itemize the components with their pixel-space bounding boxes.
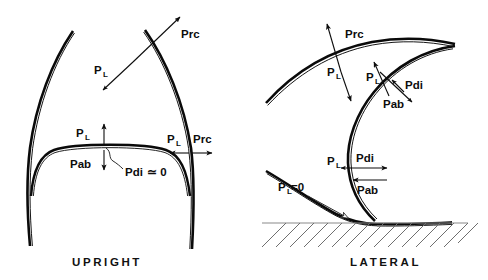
label-pab-lateral-lower: Pab xyxy=(357,184,378,196)
label-pl-lateral-lower-base: P xyxy=(327,155,335,167)
label-pl-zero-suffix: =0 xyxy=(291,181,304,193)
label-prc-upright-top: Prc xyxy=(181,28,200,40)
label-pab-lateral-lower-base: Pab xyxy=(357,184,378,196)
label-pl-lateral-mid-base: P xyxy=(366,71,374,83)
label-prc-upright-side: Prc xyxy=(193,133,212,145)
label-pdi-lateral-lower-base: Pdi xyxy=(356,152,374,164)
label-pl-upright-side-base: P xyxy=(167,133,175,145)
label-pab-upright-dome-base: Pab xyxy=(70,158,91,170)
label-pl-upright-dome-base: P xyxy=(76,127,84,139)
label-pl-zero-base: P xyxy=(278,181,286,193)
caption-upright: UPRIGHT xyxy=(72,256,142,268)
label-pl-upright-side-sub: L xyxy=(176,139,181,148)
label-pdi-upright-dome-base: Pdi xyxy=(125,166,143,178)
label-pdi-lateral-mid: Pdi xyxy=(405,79,423,91)
label-pl-lateral-mid-sub: L xyxy=(375,77,380,86)
label-pab-lateral-mid: Pab xyxy=(383,98,404,110)
label-pl-upright-top-sub: L xyxy=(103,70,108,79)
label-pl-lateral-top-sub: L xyxy=(336,72,341,81)
label-prc-upright-top-base: Prc xyxy=(181,28,200,40)
label-pl-lateral-top-base: P xyxy=(327,66,335,78)
label-pab-upright-dome: Pab xyxy=(70,158,91,170)
label-pdi-lateral-lower: Pdi xyxy=(356,152,374,164)
diagram-svg: Prc P L P L Pab Pdi ≃ 0 P L P xyxy=(0,0,488,280)
label-prc-upright-side-base: Prc xyxy=(193,133,212,145)
label-pl-upright-top-base: P xyxy=(94,64,102,76)
label-prc-lateral-top-base: Prc xyxy=(345,28,364,40)
caption-lateral: LATERAL xyxy=(350,256,421,268)
label-pdi-lateral-mid-base: Pdi xyxy=(405,79,423,91)
label-pl-upright-dome-sub: L xyxy=(85,133,90,142)
label-pl-lateral-lower-sub: L xyxy=(336,161,341,170)
figure-container: Prc P L P L Pab Pdi ≃ 0 P L P xyxy=(0,0,488,280)
label-pdi-upright-dome-suffix: ≃ 0 xyxy=(147,166,167,178)
label-prc-lateral-top: Prc xyxy=(345,28,364,40)
label-pab-lateral-mid-base: Pab xyxy=(383,98,404,110)
